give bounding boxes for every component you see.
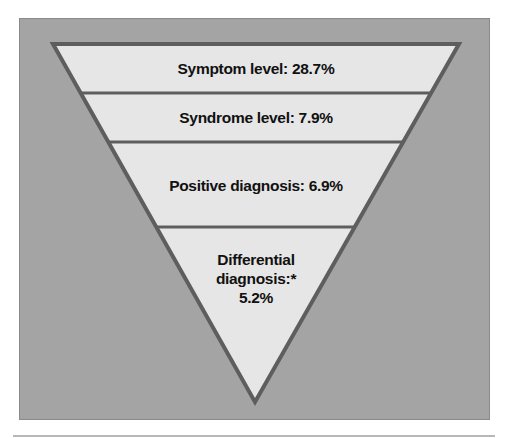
differential-line-1: Differential <box>175 250 337 269</box>
level-differential-diagnosis-label: Differential diagnosis:* 5.2% <box>175 250 337 307</box>
level-syndrome-label: Syndrome level: 7.9% <box>120 108 392 127</box>
funnel-triangle <box>53 44 459 402</box>
bottom-rule <box>13 435 495 437</box>
level-positive-diagnosis-label: Positive diagnosis: 6.9% <box>140 176 372 195</box>
differential-line-2: diagnosis:* <box>175 269 337 288</box>
differential-line-3: 5.2% <box>175 288 337 307</box>
level-symptom-label: Symptom level: 28.7% <box>100 59 412 78</box>
